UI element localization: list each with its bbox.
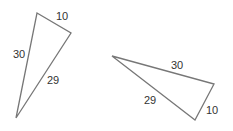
- triangle-2-shape: [112, 56, 214, 120]
- triangle-1-side-label: 30: [13, 48, 25, 60]
- triangle-1-shape: [16, 13, 71, 118]
- triangle-1-side-label: 10: [56, 10, 68, 22]
- diagram-canvas: 10 30 29 30 29 10: [0, 0, 233, 131]
- triangle-2-side-label: 10: [206, 104, 218, 116]
- triangle-2-side-label: 30: [171, 59, 183, 71]
- triangle-2-side-label: 29: [144, 94, 156, 106]
- triangles-figure: 10 30 29 30 29 10: [0, 0, 233, 131]
- triangle-1-side-label: 29: [47, 74, 59, 86]
